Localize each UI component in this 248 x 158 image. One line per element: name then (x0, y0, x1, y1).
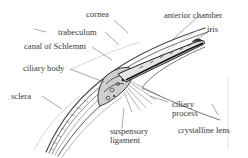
label-anterior-chamber: anterior chamber (164, 11, 222, 19)
label-ciliary-body: ciliary body (23, 64, 64, 72)
label-cornea: cornea (86, 10, 109, 18)
label-iris: iris (207, 25, 218, 33)
label-ciliary-process-line2: process (172, 109, 198, 117)
label-suspensory-ligament-line2: ligament (110, 136, 140, 144)
label-crystalline-lens: crystalline lens (178, 126, 230, 134)
label-canal-of-schlemm: canal of Schlemm (24, 42, 86, 50)
label-ciliary-process-line1: ciliary (172, 100, 194, 108)
label-suspensory-ligament-line1: suspensory (110, 127, 148, 135)
label-trabeculum: trabeculum (58, 28, 97, 36)
label-sclera: sclera (11, 92, 31, 100)
zonular-fibres (124, 82, 160, 112)
eye-anatomy-diagram: cornea trabeculum canal of Schlemm cilia… (0, 0, 248, 158)
sclera-hatching (50, 100, 88, 150)
